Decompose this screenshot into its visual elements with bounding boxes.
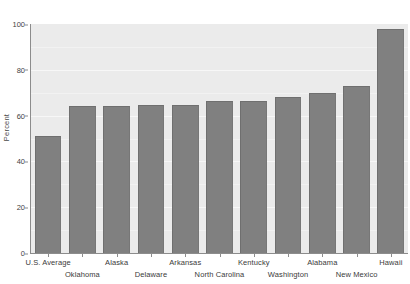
x-axis-tick-mark bbox=[82, 254, 83, 257]
x-axis-tick-mark bbox=[322, 254, 323, 257]
bar-series bbox=[31, 24, 408, 253]
bar bbox=[138, 105, 165, 253]
x-axis-tick-mark bbox=[220, 254, 221, 257]
x-axis-tick-mark bbox=[151, 254, 152, 257]
bar-chart: Percent 020406080100 U.S. AverageOklahom… bbox=[0, 0, 410, 284]
bar bbox=[377, 29, 404, 253]
y-axis-tick-label: 0 bbox=[9, 249, 25, 258]
x-axis-tick-label: New Mexico bbox=[336, 270, 378, 279]
x-axis-tick-mark bbox=[117, 254, 118, 257]
x-axis-tick-mark bbox=[254, 254, 255, 257]
x-axis-tick-mark bbox=[185, 254, 186, 257]
bar bbox=[309, 93, 336, 253]
y-axis-tick-mark bbox=[25, 253, 28, 254]
y-axis-tick-mark bbox=[25, 116, 28, 117]
y-axis-tick-mark bbox=[25, 24, 28, 25]
bar bbox=[69, 106, 96, 253]
y-axis-tick-mark bbox=[25, 207, 28, 208]
y-axis-tick-mark bbox=[25, 70, 28, 71]
x-axis-tick-label: Alaska bbox=[105, 258, 128, 267]
x-axis-tick-label: Delaware bbox=[135, 270, 167, 279]
x-axis-tick-label: Oklahoma bbox=[65, 270, 100, 279]
x-axis-tick-mark bbox=[391, 254, 392, 257]
x-axis-tick-mark bbox=[288, 254, 289, 257]
x-axis-tick-label: U.S. Average bbox=[25, 258, 70, 267]
y-axis-tick-label: 80 bbox=[9, 65, 25, 74]
bar bbox=[206, 101, 233, 253]
x-axis-tick-label: Alabama bbox=[307, 258, 337, 267]
bar bbox=[35, 136, 62, 253]
bar bbox=[343, 86, 370, 253]
x-axis-tick-mark bbox=[357, 254, 358, 257]
y-axis-line bbox=[30, 24, 31, 254]
bar bbox=[275, 97, 302, 253]
y-axis-tick-label: 100 bbox=[9, 20, 25, 29]
x-axis-tick-label: Washington bbox=[268, 270, 308, 279]
y-axis-tick-label: 20 bbox=[9, 203, 25, 212]
x-axis-tick-label: North Carolina bbox=[195, 270, 245, 279]
x-axis-tick-mark bbox=[48, 254, 49, 257]
x-axis-tick-label: Kentucky bbox=[238, 258, 270, 267]
x-axis-tick-label: Arkansas bbox=[169, 258, 201, 267]
bar bbox=[240, 101, 267, 253]
y-axis-tick-mark bbox=[25, 161, 28, 162]
bar bbox=[172, 105, 199, 253]
bar bbox=[103, 106, 130, 253]
plot-area bbox=[31, 24, 408, 253]
y-axis-tick-labels: 020406080100 bbox=[12, 18, 28, 259]
y-axis-tick-label: 60 bbox=[9, 111, 25, 120]
x-axis-tick-label: Hawaii bbox=[379, 258, 402, 267]
y-axis-tick-label: 40 bbox=[9, 157, 25, 166]
